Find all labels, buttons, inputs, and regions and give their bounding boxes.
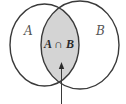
venn-diagram: A B A ∩ B: [0, 0, 126, 104]
intersection-label: A ∩ B: [44, 38, 74, 50]
set-b-label: B: [96, 25, 105, 37]
set-a-label: A: [24, 25, 33, 37]
venn-svg: [0, 0, 126, 104]
